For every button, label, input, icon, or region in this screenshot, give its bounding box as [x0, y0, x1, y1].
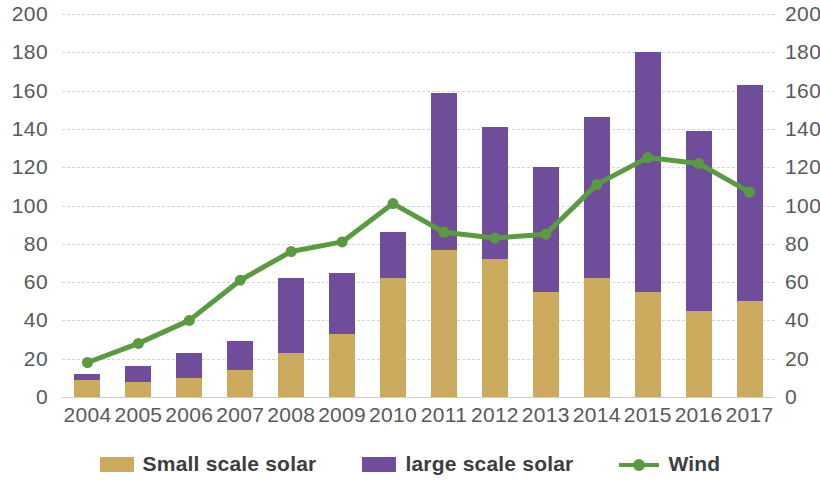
y-tick-right-100: 100	[785, 195, 819, 216]
y-tick-right-20: 20	[785, 348, 819, 369]
y-tick-left-80: 80	[0, 233, 48, 254]
y-tick-left-140: 140	[0, 118, 48, 139]
y-tick-left-160: 160	[0, 80, 48, 101]
y-tick-right-160: 160	[785, 80, 819, 101]
large-scale-solar-swatch	[362, 457, 396, 472]
chart-legend: Small scale solar large scale solar Wind	[0, 452, 820, 476]
wind-line-swatch	[619, 457, 659, 472]
small-scale-solar-swatch	[100, 457, 134, 472]
y-tick-left-100: 100	[0, 195, 48, 216]
wind-marker-2007[interactable]	[235, 275, 246, 286]
y-tick-left-120: 120	[0, 156, 48, 177]
x-tick-2017: 2017	[720, 404, 780, 425]
wind-line-path	[88, 158, 750, 363]
wind-marker-2005[interactable]	[133, 338, 144, 349]
gridline-0	[62, 397, 775, 398]
legend-item-small-scale-solar[interactable]: Small scale solar	[100, 452, 317, 476]
wind-marker-2012[interactable]	[489, 233, 500, 244]
wind-marker-2009[interactable]	[337, 236, 348, 247]
wind-marker-2014[interactable]	[591, 179, 602, 190]
legend-item-wind[interactable]: Wind	[619, 452, 720, 476]
y-tick-right-120: 120	[785, 156, 819, 177]
y-tick-left-60: 60	[0, 271, 48, 292]
chart-container: 020406080100120140160180200 020406080100…	[0, 0, 820, 487]
wind-marker-2011[interactable]	[439, 227, 450, 238]
y-tick-right-80: 80	[785, 233, 819, 254]
legend-label-large-scale-solar: large scale solar	[405, 452, 573, 476]
y-tick-right-60: 60	[785, 271, 819, 292]
wind-marker-2008[interactable]	[286, 246, 297, 257]
y-tick-left-20: 20	[0, 348, 48, 369]
wind-marker-2015[interactable]	[642, 152, 653, 163]
y-tick-right-200: 200	[785, 3, 819, 24]
y-tick-right-180: 180	[785, 41, 819, 62]
y-tick-right-40: 40	[785, 309, 819, 330]
legend-label-small-scale-solar: Small scale solar	[143, 452, 317, 476]
y-tick-left-0: 0	[0, 386, 48, 407]
wind-marker-2016[interactable]	[693, 158, 704, 169]
wind-marker-2017[interactable]	[744, 187, 755, 198]
plot-area	[62, 14, 775, 397]
y-tick-left-180: 180	[0, 41, 48, 62]
wind-marker-2013[interactable]	[540, 229, 551, 240]
wind-line-series	[62, 14, 775, 397]
legend-item-large-scale-solar[interactable]: large scale solar	[362, 452, 573, 476]
y-tick-left-200: 200	[0, 3, 48, 24]
y-tick-right-0: 0	[785, 386, 819, 407]
legend-label-wind: Wind	[668, 452, 720, 476]
wind-marker-2004[interactable]	[82, 357, 93, 368]
y-tick-right-140: 140	[785, 118, 819, 139]
wind-marker-2010[interactable]	[388, 198, 399, 209]
y-tick-left-40: 40	[0, 309, 48, 330]
wind-marker-2006[interactable]	[184, 315, 195, 326]
